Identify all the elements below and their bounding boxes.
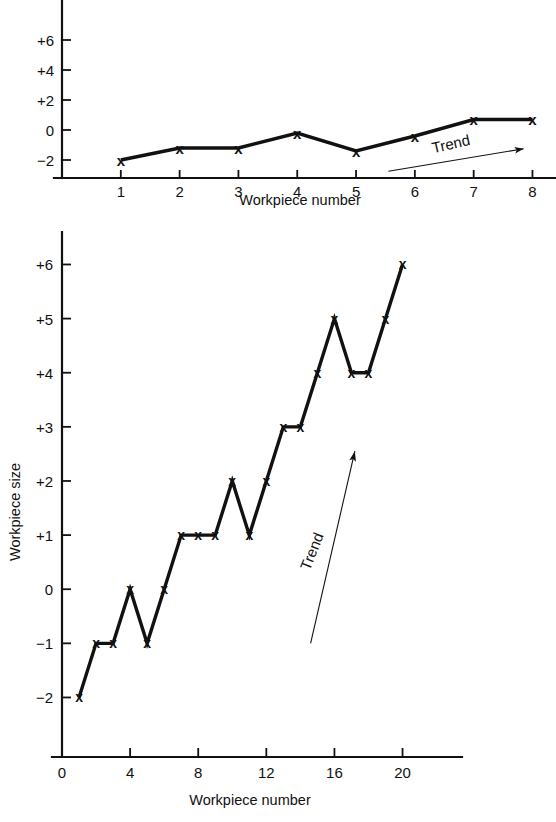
bottom-chart-data-point: x bbox=[126, 581, 134, 597]
bottom-chart-data-point: x bbox=[160, 581, 168, 597]
bottom-chart-trend-arrowhead-icon bbox=[349, 450, 358, 461]
bottom-chart-x-tick-label: 8 bbox=[194, 764, 202, 781]
bottom-chart-data-point: x bbox=[75, 689, 83, 705]
bottom-chart-data-point: x bbox=[143, 635, 151, 651]
top-chart-x-tick-label: 6 bbox=[411, 183, 419, 200]
bottom-chart-trend-label: Trend bbox=[297, 530, 327, 572]
bottom-chart-ylabel: Workpiece size bbox=[7, 463, 23, 561]
top-chart-data-point: x bbox=[352, 143, 361, 160]
top-chart-y-tick-label: +4 bbox=[37, 62, 54, 79]
bottom-chart-xlabel: Workpiece number bbox=[189, 792, 311, 808]
bottom-chart-data-point: x bbox=[365, 365, 373, 381]
bottom-chart: −2−10+1+2+3+4+5+6048121620xxxxxxxxxxxxxx… bbox=[0, 212, 556, 822]
top-chart-x-tick-label: 8 bbox=[528, 183, 536, 200]
bottom-chart-y-tick-label: +4 bbox=[36, 365, 53, 382]
bottom-chart-data-point: x bbox=[279, 419, 287, 435]
top-chart-x-tick-label: 1 bbox=[117, 183, 125, 200]
bottom-chart-data-point: x bbox=[194, 527, 202, 543]
top-chart-y-tick-label: −2 bbox=[37, 152, 54, 169]
bottom-chart-data-point: x bbox=[382, 311, 390, 327]
top-chart-y-tick-label: 0 bbox=[46, 122, 54, 139]
bottom-chart-y-tick-label: +1 bbox=[36, 527, 53, 544]
bottom-chart-y-tick-label: −2 bbox=[36, 689, 53, 706]
top-chart-trend-arrow-icon bbox=[388, 149, 523, 172]
bottom-chart-y-tick-label: +3 bbox=[36, 419, 53, 436]
bottom-chart-x-tick-label: 16 bbox=[326, 764, 343, 781]
bottom-chart-data-point: x bbox=[109, 635, 117, 651]
bottom-chart-data-point: x bbox=[92, 635, 100, 651]
top-chart-data-point: x bbox=[175, 140, 184, 157]
top-chart-data-point: x bbox=[411, 128, 420, 145]
bottom-chart-data-point: x bbox=[314, 365, 322, 381]
top-chart-y-tick-label: +6 bbox=[37, 32, 54, 49]
top-chart-trend-arrowhead-icon bbox=[514, 146, 524, 154]
bottom-chart-data-point: x bbox=[331, 311, 339, 327]
bottom-chart-y-tick-label: +2 bbox=[36, 473, 53, 490]
bottom-chart-data-point: x bbox=[348, 365, 356, 381]
bottom-chart-x-tick-label: 0 bbox=[58, 764, 66, 781]
bottom-chart-data-point: x bbox=[211, 527, 219, 543]
bottom-chart-x-tick-label: 12 bbox=[258, 764, 275, 781]
top-chart-trend-label: Trend bbox=[430, 131, 471, 156]
top-chart-xlabel: Workpiece number bbox=[239, 192, 361, 208]
top-chart-data-point: x bbox=[234, 140, 243, 157]
top-chart-data-point: x bbox=[293, 125, 302, 142]
bottom-chart-data-point: x bbox=[177, 527, 185, 543]
top-chart-plot: −20+2+4+612345678xxxxxxxxWorkpiece numbe… bbox=[37, 0, 556, 208]
bottom-chart-x-tick-label: 20 bbox=[394, 764, 411, 781]
bottom-chart-x-tick-label: 4 bbox=[126, 764, 134, 781]
bottom-chart-y-tick-label: −1 bbox=[36, 635, 53, 652]
bottom-chart-plot: −2−10+1+2+3+4+5+6048121620xxxxxxxxxxxxxx… bbox=[7, 232, 462, 808]
bottom-chart-data-point: x bbox=[296, 419, 304, 435]
bottom-chart-data-point: x bbox=[399, 256, 407, 272]
figure-container: −20+2+4+612345678xxxxxxxxWorkpiece numbe… bbox=[0, 0, 556, 822]
bottom-chart-y-tick-label: 0 bbox=[45, 581, 53, 598]
bottom-chart-data-point: x bbox=[228, 473, 236, 489]
bottom-chart-series-line bbox=[79, 264, 403, 697]
top-chart-data-point: x bbox=[528, 111, 537, 128]
top-chart-x-tick-label: 7 bbox=[469, 183, 477, 200]
bottom-chart-trend-annotation: Trend bbox=[297, 450, 359, 643]
bottom-chart-data-point: x bbox=[262, 473, 270, 489]
top-chart-data-point: x bbox=[117, 152, 126, 169]
bottom-chart-y-tick-label: +5 bbox=[36, 311, 53, 328]
top-chart-data-point: x bbox=[469, 111, 478, 128]
top-chart: −20+2+4+612345678xxxxxxxxWorkpiece numbe… bbox=[0, 0, 556, 212]
bottom-chart-data-point: x bbox=[245, 527, 253, 543]
top-chart-y-tick-label: +2 bbox=[37, 92, 54, 109]
bottom-chart-y-tick-label: +6 bbox=[36, 256, 53, 273]
top-chart-x-tick-label: 2 bbox=[175, 183, 183, 200]
